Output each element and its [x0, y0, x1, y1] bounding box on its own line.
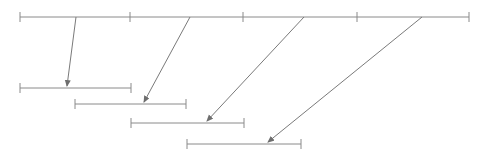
arrow-icon — [67, 17, 76, 86]
arrow-icon — [207, 17, 304, 121]
segment — [131, 118, 244, 128]
lower-segments — [20, 83, 301, 149]
segment — [187, 139, 301, 149]
arrow-icon — [268, 17, 422, 142]
mapping-diagram — [0, 0, 486, 163]
arrow-icon — [144, 17, 190, 102]
segment — [75, 99, 186, 109]
top-timeline — [20, 12, 469, 22]
segment — [20, 83, 131, 93]
